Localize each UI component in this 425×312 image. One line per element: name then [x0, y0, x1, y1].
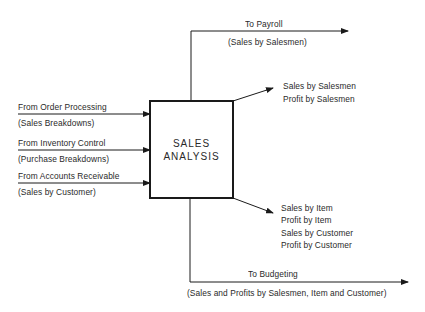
output-content-payroll: (Sales by Salesmen): [228, 36, 307, 47]
input-source-accounts-receivable: From Accounts Receivable: [18, 170, 120, 181]
report-profit-by-customer: Profit by Customer: [281, 239, 352, 250]
output-content-budgeting: (Sales and Profits by Salesmen, Item and…: [187, 287, 387, 298]
sales-analysis-label: SALES ANALYSIS: [150, 101, 233, 198]
input-content-sales-breakdowns: (Sales Breakdowns): [18, 117, 94, 128]
report-profit-by-item: Profit by Item: [281, 214, 331, 225]
input-content-purchase-breakdowns: (Purchase Breakdowns): [18, 153, 109, 164]
box-line-2: ANALYSIS: [163, 150, 219, 163]
output-arrow-salesmen-reports: [233, 88, 273, 101]
report-sales-by-salesmen: Sales by Salesmen: [283, 80, 356, 91]
output-destination-budgeting: To Budgeting: [248, 268, 298, 279]
report-sales-by-item: Sales by Item: [281, 202, 333, 213]
box-line-1: SALES: [173, 137, 210, 150]
report-sales-by-customer: Sales by Customer: [281, 227, 353, 238]
output-destination-payroll: To Payroll: [245, 18, 283, 29]
report-profit-by-salesmen: Profit by Salesmen: [283, 93, 355, 104]
input-source-order-processing: From Order Processing: [18, 101, 107, 112]
output-arrow-item-customer-reports: [233, 198, 273, 213]
input-content-sales-by-customer: (Sales by Customer): [18, 186, 96, 197]
input-source-inventory-control: From Inventory Control: [18, 137, 105, 148]
